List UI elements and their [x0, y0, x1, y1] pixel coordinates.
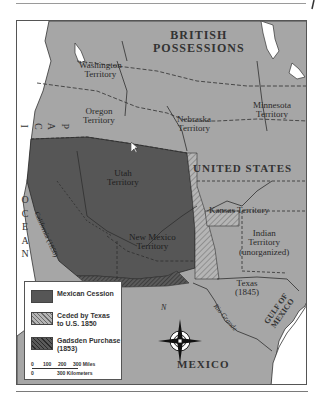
swatch-dark-hatch: [31, 337, 53, 350]
label-indian-territory: IndianTerritory(unorganized): [239, 229, 289, 257]
label-new-mexico-territory: New MexicoTerritory: [129, 233, 176, 252]
label-ocean: O C E A N: [19, 193, 31, 261]
map-legend: Mexican Cession Ceded by Texasto U.S. 18…: [24, 281, 122, 380]
legend-item-mexican-cession: Mexican Cession: [31, 290, 114, 303]
legend-item-ceded-by-texas: Ceded by Texasto U.S. 1850: [31, 312, 110, 327]
label-nebraska-territory: NebraskaTerritory: [177, 115, 211, 134]
map-frame: BRITISH POSSESSIONS WashingtonTerritory …: [16, 20, 307, 385]
label-minnesota-territory: MinnesotaTerritory: [253, 101, 291, 120]
label-pacific: P A C I F I C: [16, 120, 72, 132]
label-mexico: MEXICO: [177, 359, 229, 371]
page-corner-mark: [310, 0, 316, 10]
label-utah-territory: UtahTerritory: [107, 169, 139, 188]
swatch-solid-dark: [31, 290, 53, 303]
label-kansas-territory: Kansas Territory: [209, 206, 269, 215]
bottom-rule: [16, 391, 308, 392]
scale-bar: 0 100 200 300 Miles 0 300 Kilometers: [31, 361, 117, 377]
swatch-light-hatch: [31, 312, 53, 325]
label-united-states: UNITED STATES: [193, 163, 292, 175]
label-british-possessions: BRITISH POSSESSIONS: [153, 29, 245, 54]
top-rule: [16, 3, 306, 4]
mouse-cursor-icon: [131, 142, 139, 154]
legend-item-gadsden-purchase: Gadsden Purchase(1853): [31, 337, 120, 352]
compass-north-label: N: [161, 304, 166, 312]
label-texas: Texas(1845): [235, 279, 259, 298]
label-washington-territory: WashingtonTerritory: [79, 61, 122, 80]
label-oregon-territory: OregonTerritory: [83, 107, 115, 126]
